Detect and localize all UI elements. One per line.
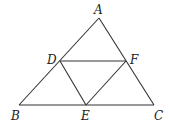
point-label-B: B [10, 109, 20, 123]
point-label-E: E [80, 109, 90, 123]
point-label-C: C [154, 109, 163, 123]
segment-EF [86, 61, 126, 105]
point-label-D: D [46, 53, 57, 67]
point-label-F: F [129, 53, 139, 67]
segment-DE [60, 61, 86, 105]
triangle-diagram: ABCDEF [0, 0, 169, 128]
point-label-A: A [93, 3, 103, 17]
